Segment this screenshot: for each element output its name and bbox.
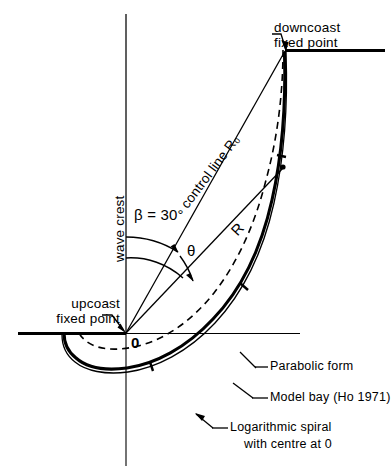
control-line-r0 xyxy=(126,51,285,333)
wave-crest-label: wave crest xyxy=(112,195,127,262)
radius-endpoint-marker xyxy=(280,164,285,169)
upcoast-fixed-point-label: upcoast fixed point xyxy=(24,296,120,326)
beta-angle-label: β = 30° xyxy=(134,207,184,224)
parabolic-leader-tick xyxy=(240,352,256,368)
parabolic-form-label: Parabolic form xyxy=(270,359,353,373)
log-spiral-label-line2: with centre at 0 xyxy=(244,437,332,451)
model-bay-leader-tick xyxy=(233,383,253,398)
beta-angle-arc-inner xyxy=(126,258,183,278)
model-bay-label: Model bay (Ho 1971) xyxy=(270,390,391,404)
log-spiral-label-line1: Logarithmic spiral xyxy=(230,420,332,434)
downcoast-fixed-point-label: downcoast fixed point xyxy=(274,20,340,50)
origin-label: 0 xyxy=(131,335,140,352)
beta-angle-arc xyxy=(126,237,178,252)
bay-shape-diagram: downcoast fixed point upcoast fixed poin… xyxy=(0,0,392,476)
theta-angle-label: θ xyxy=(187,243,196,260)
diagram-canvas xyxy=(0,0,392,476)
bay-tick-lower xyxy=(150,362,153,371)
